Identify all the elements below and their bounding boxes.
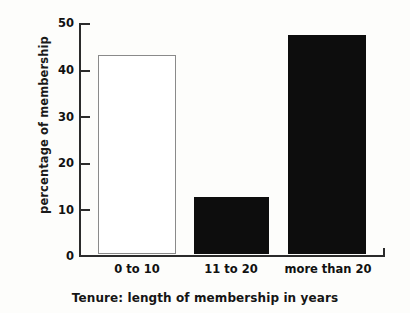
bar-more-than-20 [288, 35, 366, 254]
x-axis-end-tick [383, 248, 385, 257]
y-tick-label-20: 20 [48, 157, 74, 169]
y-tick-label-30: 30 [48, 111, 74, 123]
y-tick-label-10: 10 [48, 204, 74, 216]
bar-11-to-20 [194, 197, 269, 254]
y-tick-mark-40 [81, 70, 90, 72]
x-category-label-1: 11 to 20 [190, 262, 272, 276]
x-category-label-0: 0 to 10 [98, 262, 176, 276]
y-tick-mark-20 [81, 163, 90, 165]
y-tick-label-50: 50 [48, 17, 74, 29]
y-tick-mark-10 [81, 209, 90, 211]
y-tick-mark-30 [81, 116, 90, 118]
x-axis-title: Tenure: length of membership in years [0, 291, 410, 305]
y-tick-label-40: 40 [48, 64, 74, 76]
bar-chart-figure: percentage of membership 50 40 30 20 10 … [0, 0, 410, 313]
bar-0-to-10 [98, 55, 176, 254]
x-axis-line [79, 255, 385, 257]
x-category-label-2: more than 20 [277, 262, 379, 276]
y-tick-mark-50 [81, 23, 90, 25]
y-tick-label-0: 0 [48, 250, 74, 262]
plot-area [79, 23, 385, 256]
y-axis-line [79, 23, 81, 257]
